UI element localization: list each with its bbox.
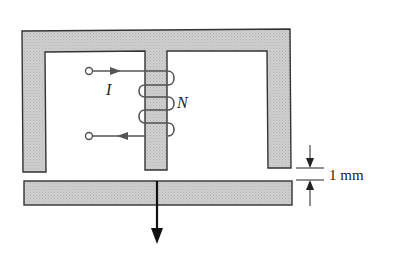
output-terminal — [86, 133, 93, 140]
current-direction-arrow-out — [117, 132, 128, 140]
turns-label: N — [176, 94, 189, 111]
gap-label: 1 mm — [329, 167, 364, 183]
magnetic-core — [22, 29, 291, 172]
input-terminal — [86, 68, 93, 75]
current-label: I — [105, 81, 112, 98]
electromagnet-diagram: I N 1 mm — [0, 0, 398, 254]
current-direction-arrow-in — [110, 67, 121, 75]
gap-dimension — [296, 145, 324, 206]
